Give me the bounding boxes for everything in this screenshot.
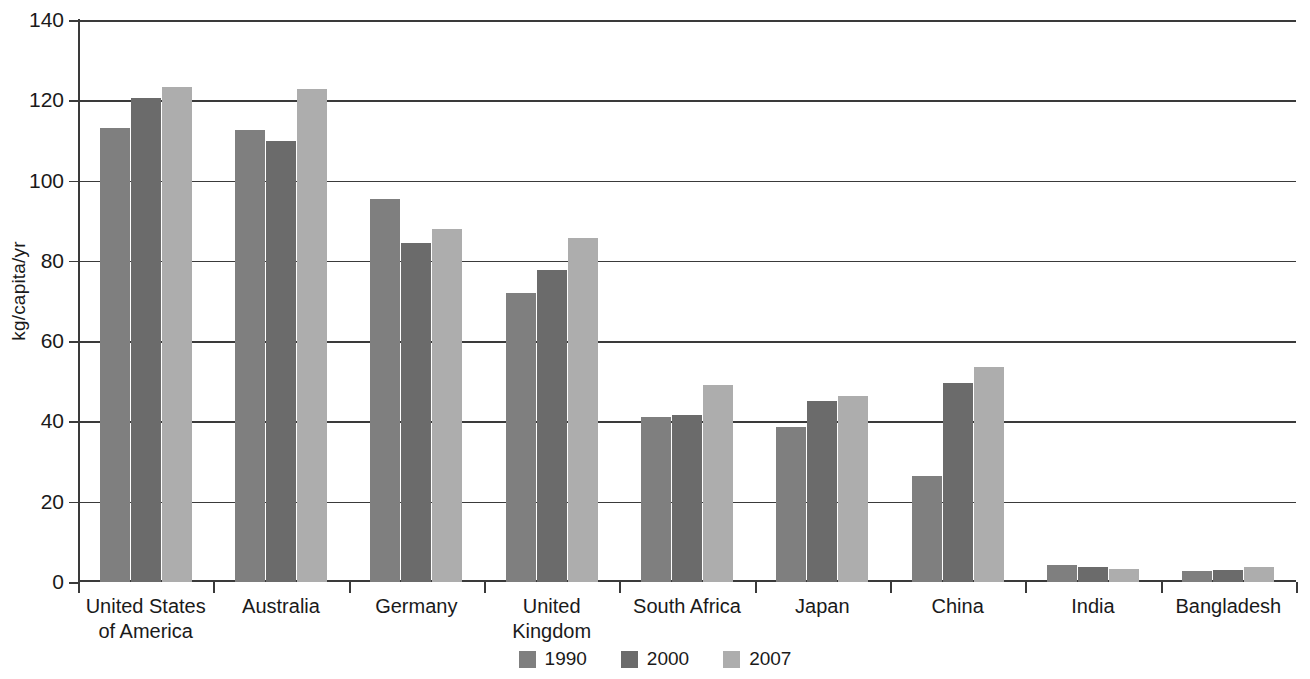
x-axis-category-label: South Africa (619, 594, 754, 619)
x-axis-category-label: China (890, 594, 1025, 619)
legend-item: 1990 (519, 648, 587, 670)
legend-label: 2000 (647, 648, 689, 670)
bar (943, 383, 973, 582)
bar (672, 415, 702, 582)
bar (432, 229, 462, 582)
bar (506, 293, 536, 582)
bar-group (1182, 20, 1274, 582)
x-axis-tick-mark (755, 582, 757, 593)
legend-item: 2007 (723, 648, 791, 670)
x-axis-category-label: Australia (213, 594, 348, 619)
bar (401, 243, 431, 582)
bar (838, 396, 868, 582)
x-axis-tick-mark (1161, 582, 1163, 593)
legend-swatch-icon (621, 651, 638, 668)
bar (1078, 567, 1108, 582)
x-axis-tick-mark (349, 582, 351, 593)
bar (641, 417, 671, 582)
y-axis-title-label: kg/capita/yr (8, 241, 30, 341)
legend-swatch-icon (723, 651, 740, 668)
legend-swatch-icon (519, 651, 536, 668)
chart-legend: 199020002007 (0, 648, 1310, 670)
y-axis-tick-label: 100 (29, 169, 64, 193)
bar-group (506, 20, 598, 582)
bar (1213, 570, 1243, 582)
y-axis-tick-label: 120 (29, 88, 64, 112)
x-axis-tick-mark (1296, 582, 1298, 593)
x-axis-category-label: Germany (349, 594, 484, 619)
bar-group (1047, 20, 1139, 582)
legend-label: 1990 (545, 648, 587, 670)
bar (100, 128, 130, 582)
x-axis-tick-mark (213, 582, 215, 593)
x-axis-category-label: Bangladesh (1161, 594, 1296, 619)
bar (537, 270, 567, 582)
bar (235, 130, 265, 582)
x-axis-category-label: United States of America (78, 594, 213, 644)
y-axis-tick-label: 40 (41, 409, 64, 433)
y-axis-tick-label: 80 (41, 249, 64, 273)
bar-group (100, 20, 192, 582)
y-axis-tick-label: 60 (41, 329, 64, 353)
bar-group (641, 20, 733, 582)
bar-group (776, 20, 868, 582)
x-axis-tick-mark (78, 582, 80, 593)
x-axis-category-label: India (1025, 594, 1160, 619)
bar (370, 199, 400, 582)
y-axis-tick-label: 0 (52, 570, 64, 594)
bar (266, 141, 296, 582)
y-axis-tick-mark (69, 421, 78, 423)
x-axis-tick-mark (484, 582, 486, 593)
bar (912, 476, 942, 582)
bar (807, 401, 837, 582)
x-axis-tick-mark (890, 582, 892, 593)
y-axis-tick-mark (69, 20, 78, 22)
y-axis-tick-label: 20 (41, 490, 64, 514)
x-axis-category-label: Japan (755, 594, 890, 619)
y-axis-tick-mark (69, 100, 78, 102)
bar-group (235, 20, 327, 582)
bar-groups (78, 20, 1296, 582)
legend-label: 2007 (749, 648, 791, 670)
y-axis-tick-label: 140 (29, 8, 64, 32)
bar (1047, 565, 1077, 582)
bar-group (370, 20, 462, 582)
y-axis-tick-mark (69, 502, 78, 504)
bar (974, 367, 1004, 582)
bar (131, 98, 161, 582)
plot-area: 020406080100120140 (78, 20, 1296, 582)
y-axis-tick-mark (69, 261, 78, 263)
bar-chart: kg/capita/yr 020406080100120140 United S… (0, 0, 1310, 679)
x-axis-category-label: United Kingdom (484, 594, 619, 644)
y-axis-tick-mark (69, 341, 78, 343)
bar (1182, 571, 1212, 582)
bar-group (912, 20, 1004, 582)
bar (162, 87, 192, 582)
bar (776, 427, 806, 582)
x-axis-tick-mark (1025, 582, 1027, 593)
legend-item: 2000 (621, 648, 689, 670)
bar (297, 89, 327, 582)
bar (703, 385, 733, 583)
y-axis-tick-mark (69, 181, 78, 183)
bar (1109, 569, 1139, 582)
bar (568, 238, 598, 582)
y-axis-tick-mark (69, 582, 78, 584)
x-axis-tick-mark (619, 582, 621, 593)
bar (1244, 567, 1274, 582)
